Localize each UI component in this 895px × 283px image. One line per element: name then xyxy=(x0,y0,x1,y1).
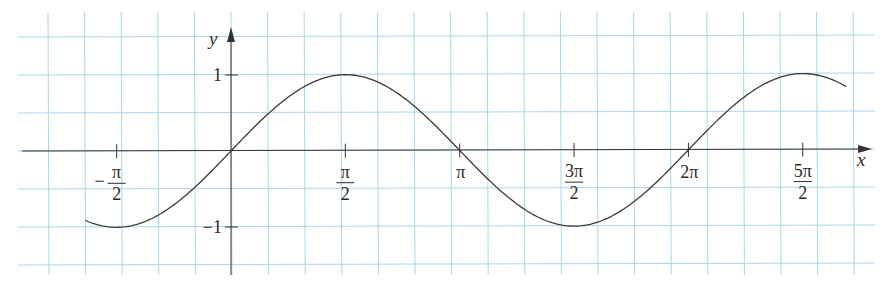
x-tick-denominator: 2 xyxy=(798,183,807,203)
x-tick-label: π xyxy=(456,162,465,182)
grid-line-vertical xyxy=(451,12,452,275)
x-tick-label: 3π2 xyxy=(565,161,583,203)
grid-line-vertical xyxy=(268,12,269,275)
x-tick-numerator: π xyxy=(341,162,350,182)
x-tick-denominator: 2 xyxy=(112,184,121,204)
grid-line-vertical xyxy=(487,12,488,275)
x-tick-label: 5π2 xyxy=(794,161,812,203)
grid-line-vertical xyxy=(341,12,342,275)
grid-line-vertical xyxy=(48,12,49,275)
x-tick-numerator: π xyxy=(112,162,121,182)
x-tick-text: π xyxy=(456,162,465,182)
grid-line-vertical xyxy=(121,12,122,275)
x-tick-label: π2− xyxy=(95,162,126,204)
grid-line-vertical xyxy=(597,12,598,275)
grid-line-vertical xyxy=(194,12,195,275)
grid-line-horizontal xyxy=(18,225,875,227)
grid-line-horizontal xyxy=(18,35,875,37)
grid-line-vertical xyxy=(560,12,561,275)
grid-line-vertical xyxy=(414,12,415,275)
grid-line-vertical xyxy=(158,12,159,275)
grid-line-vertical xyxy=(853,12,854,275)
x-tick-numerator: 3π xyxy=(565,161,583,181)
x-tick-label: π2 xyxy=(336,162,354,204)
grid-line-vertical xyxy=(304,12,305,275)
x-tick-numerator: 5π xyxy=(794,161,812,181)
grid-line-vertical xyxy=(817,12,818,275)
x-tick-text: 2π xyxy=(680,162,698,182)
grid-line-horizontal xyxy=(18,263,875,265)
y-axis-arrow-icon xyxy=(227,27,235,42)
grid-line-vertical xyxy=(670,12,671,275)
grid-line-vertical xyxy=(707,12,708,275)
grid-line-horizontal xyxy=(18,73,875,75)
x-tick-label: 2π xyxy=(680,162,698,182)
grid xyxy=(18,12,875,275)
grid-line-horizontal xyxy=(18,111,875,113)
grid-line-vertical xyxy=(377,12,378,275)
x-tick-denominator: 2 xyxy=(341,184,350,204)
sine-graph: π2−π2π3π22π5π21−1 x y xyxy=(0,0,895,283)
x-axis-label: x xyxy=(856,149,866,170)
grid-line-vertical xyxy=(85,12,86,275)
grid-line-vertical xyxy=(743,12,744,275)
y-axis-label: y xyxy=(207,28,218,49)
y-tick-label: −1 xyxy=(203,217,222,237)
x-tick-denominator: 2 xyxy=(570,183,579,203)
grid-line-horizontal xyxy=(18,187,875,189)
x-axis xyxy=(22,149,862,151)
grid-line-vertical xyxy=(634,12,635,275)
grid-line-vertical xyxy=(524,12,525,275)
grid-line-vertical xyxy=(780,12,781,275)
y-tick-label: 1 xyxy=(213,65,222,85)
x-tick-sign: − xyxy=(95,171,105,191)
